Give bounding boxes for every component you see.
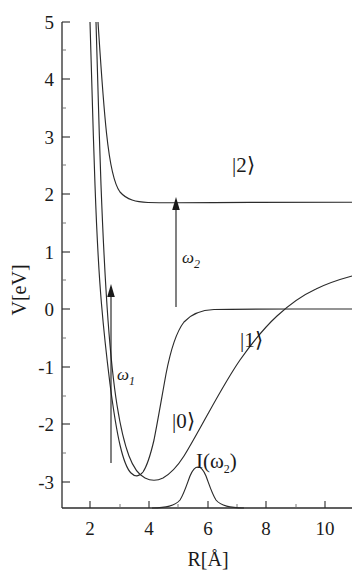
y-axis-title: V[eV] (8, 264, 30, 315)
x-axis-major-ticks (90, 501, 325, 508)
x-tick-label-2: 2 (85, 518, 95, 539)
y-tick-label-neg1: -1 (38, 357, 54, 378)
y-tick-label-1: 1 (45, 242, 55, 263)
state-label-2: |2⟩ (232, 153, 255, 177)
x-tick-label-8: 8 (261, 518, 271, 539)
chart-canvas: 5 4 3 2 1 0 -1 -2 -3 2 4 6 8 10 V[eV] R[… (0, 0, 360, 580)
y-tick-label-0: 0 (45, 299, 55, 320)
omega2-label: ω2 (182, 248, 200, 271)
axes-group (62, 22, 352, 508)
y-tick-label-neg2: -2 (38, 414, 54, 435)
state-label-1: |1⟩ (240, 328, 263, 352)
curve-state-0 (96, 22, 352, 480)
omega2-arrowhead (172, 197, 180, 210)
curve-state-2 (98, 22, 352, 203)
omega2-arrow (172, 197, 180, 307)
y-tick-label-neg3: -3 (38, 472, 54, 493)
state-label-0: |0⟩ (172, 409, 195, 433)
intensity-label: I(ω2) (196, 449, 237, 476)
y-tick-label-3: 3 (45, 127, 55, 148)
potential-energy-curve-figure: 5 4 3 2 1 0 -1 -2 -3 2 4 6 8 10 V[eV] R[… (0, 0, 360, 580)
x-tick-label-6: 6 (203, 518, 213, 539)
omega1-label: ω1 (117, 365, 135, 388)
y-axis-major-ticks (62, 22, 70, 482)
y-tick-label-2: 2 (45, 184, 55, 205)
x-tick-label-4: 4 (144, 518, 154, 539)
x-tick-label-10: 10 (316, 518, 335, 539)
curve-state-1 (90, 22, 352, 476)
y-tick-label-5: 5 (45, 12, 55, 33)
omega1-arrowhead (107, 284, 115, 297)
x-axis-title: R[Å] (187, 548, 228, 570)
y-tick-label-4: 4 (45, 69, 55, 90)
curve-intensity-profile (152, 467, 244, 508)
